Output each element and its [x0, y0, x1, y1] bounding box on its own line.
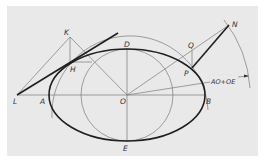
- label-p: P: [184, 69, 189, 78]
- label-l: L: [13, 97, 17, 106]
- label-a: A: [39, 97, 45, 106]
- ellipse-construction-diagram: K D N Q H P L A O B E AO+OE: [0, 0, 263, 163]
- label-o: O: [120, 97, 126, 106]
- label-n: N: [232, 20, 238, 29]
- label-e: E: [123, 144, 128, 153]
- label-d: D: [124, 40, 130, 49]
- label-h: H: [70, 65, 76, 74]
- label-b: B: [206, 97, 211, 106]
- label-q: Q: [188, 41, 194, 50]
- label-ao-plus-oe: AO+OE: [210, 78, 236, 86]
